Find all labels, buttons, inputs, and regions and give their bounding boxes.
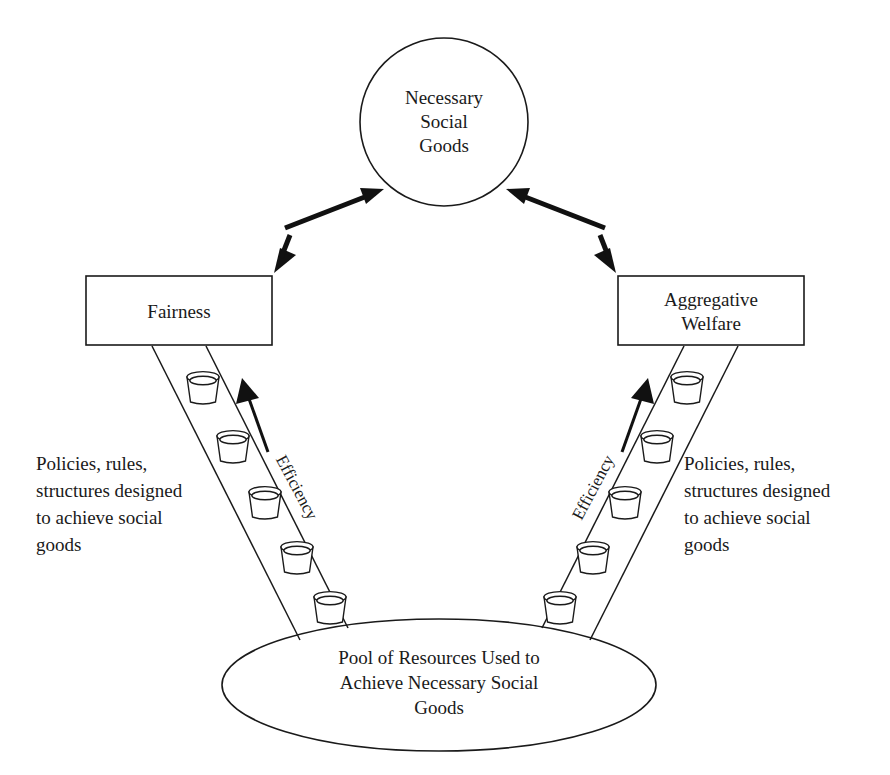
left-note-line-4: goods bbox=[36, 534, 81, 555]
fairness-label: Fairness bbox=[147, 301, 210, 322]
left-cup-3 bbox=[249, 487, 281, 519]
left-note-line-3: to achieve social bbox=[36, 507, 163, 528]
right-cup-4 bbox=[577, 542, 609, 574]
right-note-line-4: goods bbox=[684, 534, 729, 555]
diagram-canvas: Necessary Social Goods Fairness Aggregat… bbox=[0, 0, 890, 775]
right-cup-1 bbox=[671, 372, 703, 404]
welfare-goods-arrow-shaft bbox=[515, 193, 605, 228]
left-cup-group bbox=[187, 372, 346, 624]
welfare-goods-arrowhead-up bbox=[506, 188, 530, 204]
fairness-to-goods-connector bbox=[274, 188, 384, 273]
left-note-line-2: structures designed bbox=[36, 480, 183, 501]
pool-label-line-1: Pool of Resources Used to bbox=[338, 647, 540, 668]
right-note: Policies, rules, structures designed to … bbox=[684, 453, 831, 555]
necessary-social-goods-node: Necessary Social Goods bbox=[360, 38, 528, 206]
left-cup-1 bbox=[187, 372, 219, 404]
pool-label-line-2: Achieve Necessary Social bbox=[340, 672, 538, 693]
left-cup-5 bbox=[314, 592, 346, 624]
right-cup-group bbox=[544, 372, 703, 624]
fairness-goods-arrowhead-up bbox=[360, 188, 384, 204]
right-cup-5 bbox=[544, 592, 576, 624]
right-cup-2 bbox=[641, 431, 673, 463]
aggregative-welfare-node: Aggregative Welfare bbox=[618, 276, 804, 345]
aggregative-welfare-box bbox=[618, 276, 804, 345]
left-efficiency-arrowhead bbox=[236, 378, 259, 404]
right-cup-3 bbox=[609, 487, 641, 519]
right-note-line-3: to achieve social bbox=[684, 507, 811, 528]
left-note: Policies, rules, structures designed to … bbox=[36, 453, 183, 555]
right-channel-inner-line bbox=[542, 346, 684, 628]
diagram-svg: Necessary Social Goods Fairness Aggregat… bbox=[0, 0, 890, 775]
left-note-line-1: Policies, rules, bbox=[36, 453, 147, 474]
aggregative-welfare-line-2: Welfare bbox=[681, 313, 741, 334]
left-efficiency-arrow-shaft bbox=[248, 396, 268, 452]
pool-label-line-3: Goods bbox=[414, 697, 464, 718]
necessary-social-goods-line-3: Goods bbox=[419, 135, 469, 156]
aggregative-welfare-line-1: Aggregative bbox=[664, 289, 758, 310]
right-efficiency-label: Efficiency bbox=[568, 451, 618, 523]
welfare-to-goods-connector bbox=[506, 188, 616, 273]
right-note-line-2: structures designed bbox=[684, 480, 831, 501]
right-efficiency-arrow-shaft bbox=[622, 396, 642, 452]
necessary-social-goods-line-2: Social bbox=[420, 111, 468, 132]
fairness-goods-arrow-shaft bbox=[285, 193, 375, 228]
right-note-line-1: Policies, rules, bbox=[684, 453, 795, 474]
fairness-node: Fairness bbox=[86, 276, 272, 345]
left-cup-4 bbox=[281, 542, 313, 574]
left-cup-2 bbox=[217, 431, 249, 463]
right-efficiency-arrowhead bbox=[631, 378, 654, 404]
necessary-social-goods-line-1: Necessary bbox=[405, 87, 484, 108]
left-channel-inner-line bbox=[206, 346, 348, 628]
left-efficiency-label: Efficiency bbox=[272, 452, 322, 524]
